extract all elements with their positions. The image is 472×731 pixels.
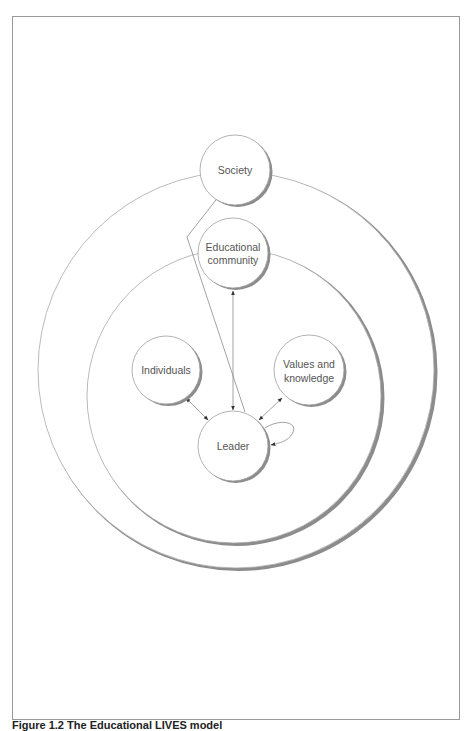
- educational-community-ring: [87, 249, 383, 544]
- educational-lives-diagram: Society Educational community Individual…: [0, 0, 472, 731]
- node-label-individuals: Individuals: [141, 364, 191, 376]
- node-label-educational-community-line2: community: [208, 254, 260, 266]
- node-label-educational-community-line1: Educational: [206, 241, 261, 253]
- node-label-society: Society: [218, 164, 253, 176]
- node-label-values-line1: Values and: [283, 358, 335, 370]
- node-label-values-line2: knowledge: [284, 372, 334, 384]
- figure-caption: Figure 1.2 The Educational LIVES model: [12, 720, 222, 731]
- node-label-leader: Leader: [217, 440, 250, 452]
